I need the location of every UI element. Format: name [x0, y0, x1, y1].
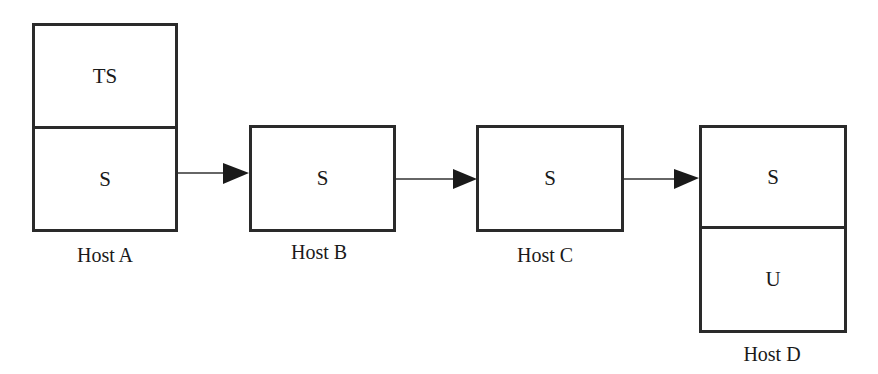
host-c-label: Host C	[470, 244, 620, 267]
arrow-c-to-d	[624, 169, 699, 189]
host-a-cell-s: S	[32, 126, 178, 232]
arrowhead-icon	[674, 169, 699, 189]
host-d-cell-s-label: S	[767, 165, 779, 190]
host-a-cell-s-label: S	[99, 167, 111, 192]
host-a-cell-ts-label: TS	[93, 64, 118, 89]
host-d-cell-u: U	[699, 226, 847, 333]
arrow-b-to-c	[396, 169, 477, 189]
host-d-cell-u-label: U	[765, 267, 780, 292]
host-b-cell-s: S	[249, 125, 396, 232]
arrowhead-icon	[453, 169, 477, 189]
host-c-cell-s: S	[476, 125, 624, 232]
host-d-label: Host D	[697, 343, 847, 366]
arrowhead-icon	[223, 163, 249, 184]
host-d-cell-s: S	[699, 125, 847, 229]
host-a-label: Host A	[30, 244, 180, 267]
host-c-cell-s-label: S	[544, 166, 556, 191]
host-b-cell-s-label: S	[317, 166, 329, 191]
host-b-label: Host B	[244, 241, 394, 264]
arrow-a-to-b	[178, 163, 249, 184]
host-a-cell-ts: TS	[32, 23, 178, 129]
